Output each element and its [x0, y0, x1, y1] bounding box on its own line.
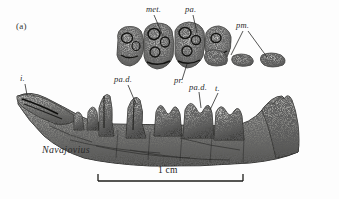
leader-pm-2: [248, 31, 267, 57]
genus-label: Navajovius: [42, 145, 90, 155]
figure-plate: (a) met. pa. pm. pa.d. pr. pa.d. t. i. N…: [0, 0, 339, 199]
scale-bar-label: 1 cm: [158, 166, 178, 176]
panel-label: (a): [16, 22, 27, 31]
label-pr: pr.: [174, 76, 183, 85]
label-i: i.: [20, 74, 25, 83]
upper-tooth-row: [117, 22, 285, 69]
label-pa-d-right: pa.d.: [189, 83, 207, 92]
leader-t: [210, 93, 218, 110]
leader-pm-1: [231, 31, 243, 55]
label-t: t.: [215, 84, 220, 93]
label-pm: pm.: [236, 21, 249, 30]
label-pa: pa.: [185, 5, 196, 14]
lower-jaw-specimen: [17, 93, 299, 166]
label-met: met.: [146, 5, 161, 14]
leader-pad-2: [199, 92, 201, 108]
label-pa-d-left: pa.d.: [114, 75, 132, 84]
